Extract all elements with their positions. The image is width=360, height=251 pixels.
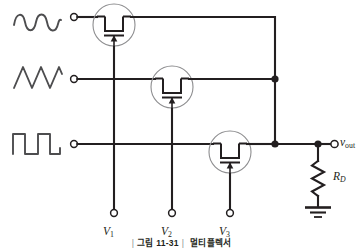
figure-container: V1 V2 V3 vout RD |그림 11-31|멀티플렉서: [0, 0, 360, 251]
triangle-wave-icon: [14, 67, 62, 88]
junction-dot-m3: [271, 140, 278, 147]
drain-resistor[interactable]: [312, 147, 324, 207]
gate-terminal-v3[interactable]: [227, 210, 234, 217]
caption-number: 그림 11-31: [137, 238, 179, 248]
mosfet-m3[interactable]: [209, 131, 251, 174]
ground-symbol: [305, 208, 331, 218]
output-label: vout: [340, 133, 355, 150]
resistor-label: RD: [333, 167, 346, 184]
figure-caption: |그림 11-31|멀티플렉서: [0, 236, 360, 251]
circuit-schematic: [0, 0, 360, 251]
square-wave-icon: [13, 134, 60, 154]
mosfet-m2[interactable]: [151, 66, 193, 109]
output-terminal[interactable]: [331, 140, 338, 147]
caption-bar-right: |: [179, 238, 187, 248]
gate-terminal-v1[interactable]: [111, 210, 118, 217]
caption-bar-left: |: [129, 238, 137, 248]
caption-title: 멀티플렉서: [187, 238, 231, 248]
junction-dot-m2: [271, 75, 278, 82]
gate-terminal-v2[interactable]: [169, 210, 176, 217]
sine-wave-icon: [14, 15, 61, 31]
mosfet-m1[interactable]: [93, 4, 135, 47]
